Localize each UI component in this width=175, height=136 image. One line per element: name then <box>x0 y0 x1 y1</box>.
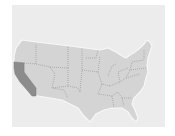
us-map <box>0 0 175 136</box>
us-outline <box>14 40 152 122</box>
